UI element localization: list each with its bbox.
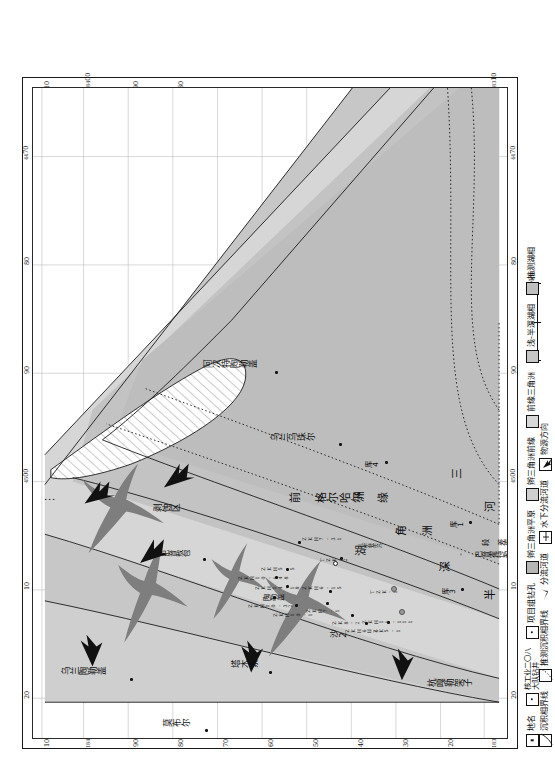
place-label-wulantaolegai: 乌兰陶勒盖	[61, 666, 106, 678]
distributary-channel-icon	[539, 588, 552, 601]
axis-tick-bottom-0: 20	[510, 691, 518, 699]
well-label-ZKH7-31[interactable]: ZKH7-31	[301, 536, 341, 542]
figure-page: 20 10 4500 90 80 4470 20 10 4500 90 80 4…	[0, 0, 555, 761]
well-label-ZKH5-5[interactable]: ZKH5-5	[260, 566, 295, 572]
drill-hole-icon	[526, 693, 539, 706]
facies-boundary-line-icon	[539, 734, 552, 747]
axis-tick-top-1: 10	[23, 582, 31, 590]
legend-item-inferred-lake[interactable]: 推测湖相	[526, 247, 539, 295]
well-label-ZKH10-148[interactable]: ZKH10-148	[237, 575, 289, 581]
place-label-acitetaolegai: 阿次特陶勒盖	[203, 359, 257, 371]
legend-label-braided-delta-front: 辫三角洲前缘	[528, 437, 537, 485]
place-dot-tamusu	[269, 671, 272, 674]
legend-item-project-drill[interactable]: 项目组钻孔	[526, 583, 539, 639]
legend-label-braided-delta-plain: 辫三角洲平原	[528, 510, 537, 558]
well-label-TZK-2[interactable]: TZK-2	[319, 557, 348, 563]
well-dot-ZKH5-5[interactable]	[286, 568, 289, 571]
legend-item-braided-delta-plain[interactable]: 辫三角洲平原	[526, 510, 539, 574]
axis-tick-left-10: 10	[43, 739, 51, 747]
facies-label-river: 河	[484, 500, 496, 516]
legend-label-inferred-boundary: 推测沉积相界线	[541, 610, 550, 666]
well-label-HZK5-1[interactable]: HZK5-1	[366, 628, 401, 634]
well-label-ZKH11-111[interactable]: ZKH11-111	[361, 619, 413, 625]
legend-item-inferred-boundary[interactable]: 推测沉积相界线	[539, 610, 552, 682]
axis-tick-left-6: 70	[222, 739, 230, 747]
place-label-wulanwuzhuer: 乌兰乌珠尔	[270, 432, 315, 444]
legend-label-inferred-lake: 推测湖相	[528, 247, 537, 279]
axis-tick-left-3: 40	[357, 739, 365, 747]
well-label-ZKH7-1[interactable]: ZKH7-1	[305, 608, 340, 614]
axis-tick-bottom-2: 4500	[510, 469, 516, 483]
axis-tick-top-4: 80	[23, 257, 31, 265]
place-name-icon	[526, 734, 539, 747]
well-dot-ZKH7-1[interactable]	[326, 602, 329, 605]
facies-label-delta-front: 角 洲	[395, 524, 433, 540]
braided-delta-plain-swatch-icon	[526, 561, 539, 574]
facies-label-delta: 洲	[353, 490, 365, 506]
well-dot-TZK-2[interactable]	[340, 557, 343, 560]
well-dot-ZKH10-148[interactable]	[275, 576, 278, 579]
legend-label-distributary-channel: 分流河道	[541, 553, 550, 585]
axis-tick-bottom-1: 10	[510, 582, 518, 590]
legend-item-shallow-semideep-lake[interactable]: 浅-半深湖相	[526, 304, 539, 363]
place-dot-ku1	[469, 521, 472, 524]
well-dot-ZKH6-15[interactable]	[329, 590, 332, 593]
facies-label-three: 三	[451, 467, 463, 483]
inferred-boundary-line-icon	[539, 669, 552, 682]
axis-tick-left-4: 50	[312, 739, 320, 747]
legend-item-braided-delta-front[interactable]: 辫三角洲前缘	[526, 437, 539, 501]
place-label-bayinaobao: 巴音敖包	[161, 548, 189, 559]
axis-tick-top-0: 20	[23, 691, 31, 699]
map-panel: 20 10 4500 90 80 4470 20 10 4500 90 80 4…	[22, 77, 518, 749]
well-label-ZKH14-18[interactable]: ZKH14-18	[254, 585, 300, 591]
axis-tick-left-2: 30	[402, 739, 410, 747]
well-dot-ZKH14-18[interactable]	[286, 585, 289, 588]
axis-tick-left-1: 20	[447, 739, 455, 747]
legend-item-place-name[interactable]: 地名	[526, 715, 539, 747]
place-label-mobuer: 莫布尔	[163, 718, 190, 730]
well-label-ZKH6-15[interactable]: ZKH6-15	[301, 585, 341, 591]
well-dot-ZKH11-111[interactable]	[399, 609, 405, 615]
place-dot-bayinaobao	[203, 558, 206, 561]
rotated-figure-wrapper: 20 10 4500 90 80 4470 20 10 4500 90 80 4…	[0, 0, 555, 761]
legend-label-provenance-direction: 物源方向	[541, 423, 550, 455]
legend-item-nuclear-drill[interactable]: 核工业二〇八 大队钻井	[524, 648, 540, 706]
well-label-ZKH10-32[interactable]: ZKH10-32	[247, 603, 293, 609]
well-dot-TZK-1[interactable]	[391, 586, 397, 592]
place-dot-acitetaolegai	[275, 371, 278, 374]
well-label-ZK8-2[interactable]: ZK8-2	[331, 620, 360, 626]
well-dot-ZKH10-1[interactable]	[295, 604, 298, 607]
facies-label-front-delta-margin: 前 格尔哈尔 缘	[289, 491, 389, 507]
well-dot-ZK8-2[interactable]	[351, 614, 354, 617]
legend-item-subaqueous-channel[interactable]: 水下分流河道	[539, 480, 552, 544]
place-dot-ku4	[385, 461, 388, 464]
axis-tick-left-7: 80	[177, 739, 185, 747]
axis-tick-top-5: 4470	[23, 146, 29, 160]
legend-label-facies-boundary: 沉积相界线	[541, 691, 550, 731]
place-dot-wulantaolegai	[130, 678, 133, 681]
inferred-lake-swatch-icon	[526, 282, 539, 295]
legend-label-subaqueous-channel: 水下分流河道	[541, 480, 550, 528]
shallow-semideep-lake-swatch-icon	[526, 350, 539, 363]
place-label-tamusu: 塔木素	[231, 659, 258, 671]
well-dot-ZKH10-32[interactable]	[273, 596, 276, 599]
place-label-bochiqu: 剥蚀区	[153, 503, 180, 515]
legend-label-nuclear-drill: 核工业二〇八 大队钻井	[524, 648, 540, 690]
place-dot-wulanwuzhuer	[339, 443, 342, 446]
place-dot-ku3	[461, 588, 464, 591]
legend-item-distributary-channel[interactable]: 分流河道	[539, 553, 552, 601]
legend-label-place-name: 地名	[528, 715, 537, 731]
axis-tick-top-3: 90	[23, 366, 31, 374]
axis-tick-bottom-3: 90	[510, 366, 518, 374]
section-line-label-2: 段 差库尔图哈沙	[481, 537, 508, 548]
place-label-ku4: 库4	[364, 459, 380, 470]
legend-item-provenance-direction[interactable]: 物源方向	[539, 423, 552, 471]
legend-label-shallow-semideep-lake: 浅-半深湖相	[528, 304, 537, 347]
legend-item-facies-boundary[interactable]: 沉积相界线	[539, 691, 552, 747]
well-dot-ZKH7-31[interactable]	[298, 541, 301, 544]
legend-label-project-drill: 项目组钻孔	[528, 583, 537, 623]
place-label-ku1: 库1	[449, 519, 465, 530]
axis-tick-bottom-4: 80	[510, 257, 518, 265]
legend-item-pre-delta[interactable]: 前缘三角洲	[526, 372, 539, 428]
legend-row-2: 沉积相界线 推测沉积相界线 分流河道	[539, 414, 552, 747]
